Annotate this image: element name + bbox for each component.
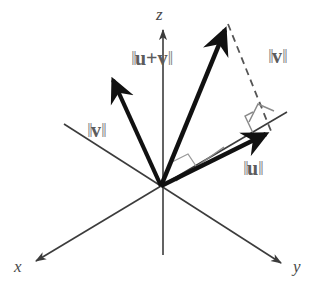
norm-vector-u: u	[247, 157, 258, 179]
norm-bar-close: ‖	[101, 118, 105, 142]
norm-vector-u: u	[135, 47, 146, 69]
axis-label-y: y	[293, 258, 301, 275]
diagram-canvas	[0, 0, 312, 290]
label-norm-u: ‖u‖	[243, 158, 262, 179]
x-axis	[36, 186, 161, 261]
norm-vector-v: v	[272, 45, 282, 67]
axis-label-z: z	[156, 6, 163, 23]
y-axis	[161, 186, 281, 263]
axis-label-x: x	[14, 258, 22, 275]
dashed-v-segment	[228, 24, 271, 131]
label-norm-v-left: ‖v‖	[87, 120, 105, 141]
label-norm-v-right: ‖v‖	[268, 46, 286, 67]
norm-vector-v: v	[91, 119, 101, 141]
norm-vector-v: v	[157, 47, 167, 69]
norm-bar-close: ‖	[167, 46, 171, 70]
label-norm-u-plus-v: ‖u+v‖	[131, 48, 171, 69]
norm-bar-close: ‖	[258, 156, 262, 180]
norm-bar-close: ‖	[282, 44, 286, 68]
norm-operator-plus: +	[146, 47, 157, 69]
vector-diagram-figure: z x y ‖u+v‖ ‖v‖ ‖v‖ ‖u‖	[0, 0, 312, 290]
